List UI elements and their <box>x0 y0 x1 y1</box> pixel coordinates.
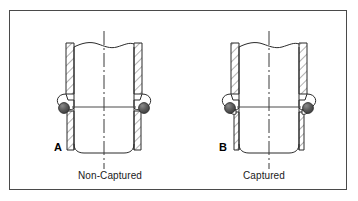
panel-b-letter-label: B <box>219 141 227 153</box>
panel-b-right-wall-upper <box>299 43 307 94</box>
panel-a-letter-label: A <box>54 141 62 153</box>
panel-a-caption: Non-Captured <box>78 170 142 181</box>
panel-b-caption: Captured <box>243 170 285 181</box>
figure-root: A Non-Captured B Captured <box>0 0 358 201</box>
figure-border-frame: A Non-Captured B Captured <box>9 10 347 190</box>
panel-b-left-wall-upper <box>231 43 239 94</box>
panel-b-right-wall-lower <box>299 112 304 150</box>
panel-b-geometry <box>222 31 315 169</box>
panel-b-left-wall-lower <box>234 112 239 150</box>
panel-b-oring-right <box>303 103 314 114</box>
diagram-panel-b <box>10 11 348 191</box>
panel-b-oring-left <box>225 103 236 114</box>
